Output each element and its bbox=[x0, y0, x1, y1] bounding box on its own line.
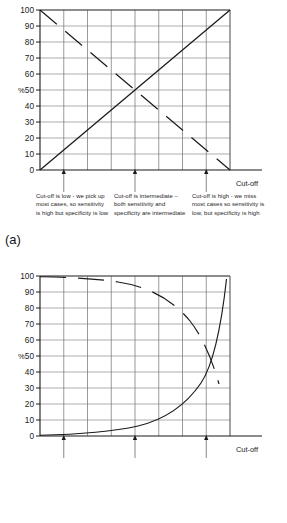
y-tick-label: 0 bbox=[29, 165, 34, 175]
panel-label-a: (a) bbox=[5, 232, 21, 247]
y-axis-title-a: % bbox=[18, 86, 25, 95]
caption-cutoff-low-a: Cut-off is low - we pick up most cases, … bbox=[36, 192, 114, 217]
y-tick-label: 30 bbox=[25, 117, 35, 127]
y-tick-label: 60 bbox=[25, 69, 35, 79]
x-axis-title-b: Cut-off bbox=[236, 445, 259, 454]
cutoff-marker-high bbox=[204, 169, 208, 192]
y-tick-label: 10 bbox=[25, 415, 35, 425]
y-tick-label: 0 bbox=[29, 431, 34, 441]
y-tick-label: 70 bbox=[25, 319, 35, 329]
chart-a: 100 90 80 70 60 50 40 30 20 10 0 % Cut-o… bbox=[0, 0, 287, 200]
sensitivity-curve-b bbox=[40, 277, 219, 384]
specificity-curve-b bbox=[40, 279, 227, 435]
y-tick-label: 100 bbox=[20, 5, 34, 15]
chart-b-svg: 100 90 80 70 60 50 40 30 20 10 0 % Cut-o… bbox=[0, 259, 287, 464]
y-tick-label: 70 bbox=[25, 53, 35, 63]
y-axis-title-b: % bbox=[18, 352, 25, 361]
y-tick-label: 10 bbox=[25, 149, 35, 159]
y-tick-label: 80 bbox=[25, 303, 35, 313]
x-axis-title-a: Cut-off bbox=[236, 179, 259, 188]
cutoff-marker-intermediate bbox=[133, 435, 137, 458]
y-tick-label: 90 bbox=[25, 21, 35, 31]
y-axis-ticks-a bbox=[36, 10, 40, 170]
y-tick-label: 40 bbox=[25, 367, 35, 377]
y-tick-label: 20 bbox=[25, 399, 35, 409]
y-tick-label: 100 bbox=[20, 271, 34, 281]
y-tick-label: 40 bbox=[25, 101, 35, 111]
y-tick-label: 80 bbox=[25, 37, 35, 47]
y-tick-label: 60 bbox=[25, 335, 35, 345]
y-axis-ticks-b bbox=[36, 276, 40, 436]
cutoff-marker-high bbox=[204, 435, 208, 458]
figure-panel-a: 100 90 80 70 60 50 40 30 20 10 0 % Cut-o… bbox=[0, 0, 287, 262]
cutoff-markers-a bbox=[62, 169, 209, 192]
cutoff-marker-low bbox=[62, 169, 66, 192]
y-tick-label: 30 bbox=[25, 383, 35, 393]
figure-panel-b: 100 90 80 70 60 50 40 30 20 10 0 % Cut-o… bbox=[0, 259, 287, 523]
cutoff-markers-b bbox=[62, 435, 209, 458]
caption-row-a: Cut-off is low - we pick up most cases, … bbox=[36, 192, 281, 217]
y-tick-label: 20 bbox=[25, 133, 35, 143]
caption-cutoff-high-a: Cut-off is high - we miss most cases so … bbox=[192, 192, 270, 217]
cutoff-marker-low bbox=[62, 435, 66, 458]
cutoff-marker-intermediate bbox=[133, 169, 137, 192]
caption-cutoff-intermediate-a: Cut-off is intermediate – both sensitivi… bbox=[114, 192, 192, 217]
chart-b: 100 90 80 70 60 50 40 30 20 10 0 % Cut-o… bbox=[0, 259, 287, 459]
y-tick-label: 50 bbox=[25, 351, 35, 361]
chart-a-svg: 100 90 80 70 60 50 40 30 20 10 0 % Cut-o… bbox=[0, 0, 287, 200]
y-tick-label: 90 bbox=[25, 287, 35, 297]
y-tick-label: 50 bbox=[25, 85, 35, 95]
